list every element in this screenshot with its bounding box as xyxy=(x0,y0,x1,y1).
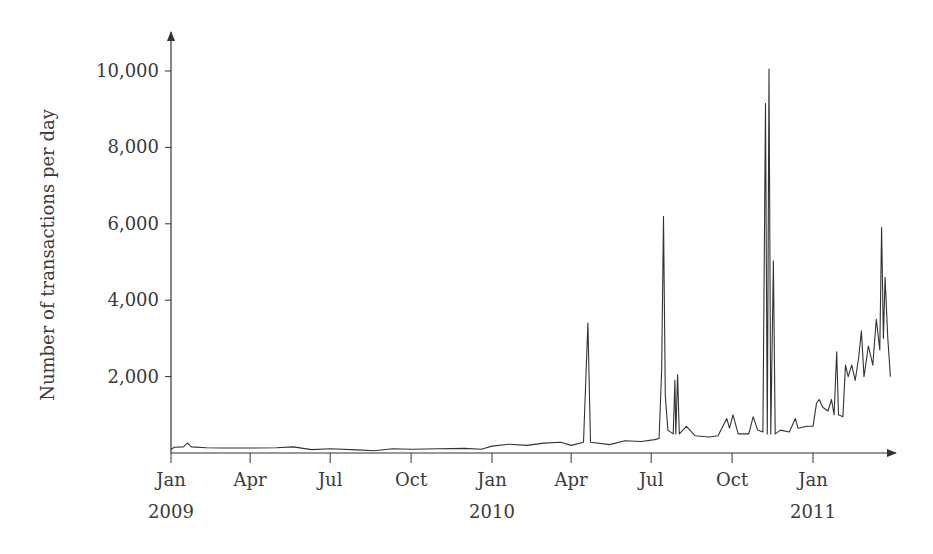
x-tick-month-label: Jul xyxy=(637,469,664,490)
y-axis-label: Number of transactions per day xyxy=(37,108,58,400)
x-axis-ticks: Jan2009AprJulOctJan2010AprJulOctJan2011 xyxy=(148,453,836,522)
y-tick-label: 10,000 xyxy=(96,60,159,81)
y-tick-label: 6,000 xyxy=(107,213,159,234)
x-tick-month-label: Apr xyxy=(554,469,589,490)
x-tick-month-label: Jan xyxy=(475,469,507,490)
x-tick-year-label: 2010 xyxy=(469,501,515,522)
transactions-series-line xyxy=(171,69,890,451)
x-tick-year-label: 2009 xyxy=(148,501,194,522)
y-tick-label: 8,000 xyxy=(107,136,159,157)
x-tick-year-label: 2011 xyxy=(790,501,836,522)
x-tick-month-label: Jul xyxy=(316,469,343,490)
y-tick-label: 2,000 xyxy=(107,366,159,387)
x-tick-month-label: Jan xyxy=(154,469,186,490)
x-tick-month-label: Apr xyxy=(233,469,268,490)
transactions-line-chart: Number of transactions per day 2,0004,00… xyxy=(0,0,933,554)
x-tick-month-label: Oct xyxy=(395,469,428,490)
y-tick-label: 4,000 xyxy=(107,289,159,310)
y-axis-ticks: 2,0004,0006,0008,00010,000 xyxy=(96,60,171,387)
x-tick-month-label: Jan xyxy=(796,469,828,490)
x-tick-month-label: Oct xyxy=(716,469,749,490)
